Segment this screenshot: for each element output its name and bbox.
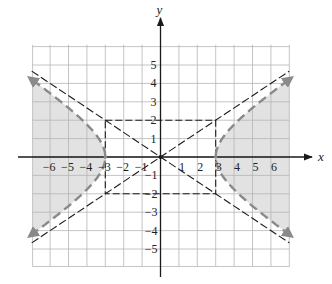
vertex-right [214, 155, 218, 159]
vertex-left [104, 155, 108, 159]
x-tick-label: −6 [43, 160, 56, 174]
x-tick-label: −2 [116, 160, 129, 174]
y-tick-label: 4 [151, 76, 157, 90]
x-tick-label: 4 [234, 160, 240, 174]
shaded-region-left [33, 45, 106, 267]
y-tick-label: −4 [145, 224, 158, 238]
x-tick-label: −3 [98, 160, 111, 174]
y-tick-label: −5 [145, 242, 158, 256]
hyperbola-graph: xy −6−5−4−3−2−112345654321−1−2−3−4−5 [0, 0, 332, 284]
x-tick-label: 1 [179, 160, 185, 174]
x-tick-label: 3 [216, 160, 222, 174]
y-tick-label: −1 [145, 168, 158, 182]
y-tick-label: 2 [151, 113, 157, 127]
x-tick-label: −4 [80, 160, 93, 174]
origin-dot [159, 155, 163, 159]
x-axis-label: x [317, 149, 324, 164]
x-tick-label: 2 [197, 160, 203, 174]
x-tick-label: 5 [253, 160, 259, 174]
y-axis-label: y [155, 2, 163, 17]
y-tick-label: −2 [145, 187, 158, 201]
y-tick-label: −3 [145, 205, 158, 219]
x-tick-label: 6 [271, 160, 277, 174]
y-tick-label: 1 [151, 132, 157, 146]
y-tick-label: 3 [151, 95, 157, 109]
x-tick-label: −5 [61, 160, 74, 174]
y-tick-label: 5 [151, 58, 157, 72]
